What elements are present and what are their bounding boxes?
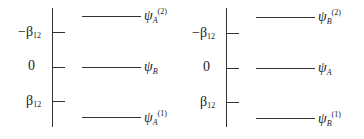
level-line-top (256, 17, 315, 18)
level-line-bottom (82, 117, 141, 118)
left-energy-diagram: −β12 0 β12 ψA(2) ψB ψA(1) (0, 0, 182, 139)
level-line-top (82, 16, 141, 17)
axis-label-minus-beta12: −β12 (192, 25, 215, 41)
tick-beta (227, 102, 239, 103)
axis-label-beta12: β12 (200, 94, 215, 110)
level-label-psiB2: ψB(2) (318, 8, 341, 26)
level-label-psiA1: ψA(1) (144, 109, 167, 127)
axis-label-zero: 0 (28, 58, 35, 74)
level-label-psiB: ψB (144, 59, 158, 76)
tick-minus-beta (53, 32, 65, 33)
axis-label-beta12: β12 (26, 93, 41, 109)
level-label-psiB1: ψB(1) (318, 110, 341, 128)
level-label-psiA2: ψA(2) (144, 7, 167, 25)
level-line-bottom (256, 118, 315, 119)
tick-beta (53, 101, 65, 102)
axis-label-zero: 0 (203, 59, 210, 75)
axis-label-minus-beta12: −β12 (18, 24, 41, 40)
tick-minus-beta (227, 33, 239, 34)
level-label-psiA: ψA (318, 60, 332, 77)
level-line-middle (82, 67, 141, 68)
tick-zero (53, 67, 65, 68)
tick-zero (227, 68, 239, 69)
level-line-middle (256, 68, 315, 69)
right-energy-diagram: −β12 0 β12 ψB(2) ψA ψB(1) (182, 0, 364, 139)
